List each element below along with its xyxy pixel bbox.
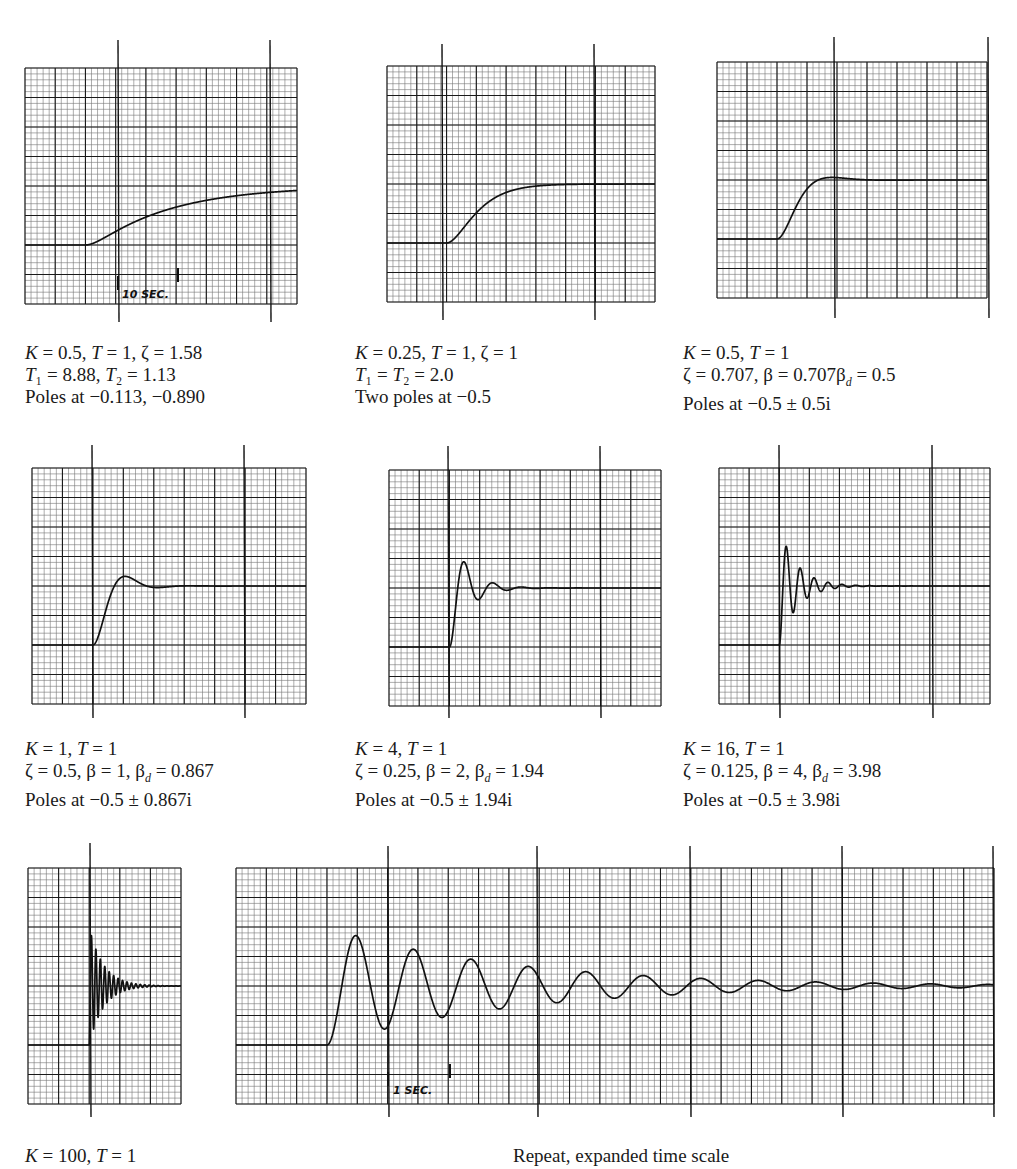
caption-p2: K = 0.25, T = 1, ζ = 1T₁ = T₂ = 2.0Two p… xyxy=(355,342,518,408)
caption-line: ζ = 0.25, β = 2, βd = 1.94 xyxy=(355,760,544,789)
time-scale-label: 1 SEC. xyxy=(393,1084,432,1097)
caption-line: K = 0.5, T = 1 xyxy=(683,342,896,364)
caption-p7: K = 100, T = 1 xyxy=(25,1145,136,1167)
caption-line: K = 100, T = 1 xyxy=(25,1145,136,1167)
caption-line: K = 4, T = 1 xyxy=(355,738,544,760)
caption-line: Poles at −0.5 ± 1.94i xyxy=(355,789,544,811)
step-response-curve xyxy=(236,936,994,1045)
caption-line: K = 1, T = 1 xyxy=(25,738,214,760)
caption-line: Repeat, expanded time scale xyxy=(513,1145,729,1167)
caption-line: ζ = 0.5, β = 1, βd = 0.867 xyxy=(25,760,214,789)
caption-line: Poles at −0.5 ± 0.5i xyxy=(683,393,896,415)
caption-p3: K = 0.5, T = 1ζ = 0.707, β = 0.707βd = 0… xyxy=(683,342,896,415)
caption-line: Poles at −0.5 ± 0.867i xyxy=(25,789,214,811)
caption-line: K = 16, T = 1 xyxy=(683,738,881,760)
time-marker-line xyxy=(993,846,994,1117)
caption-p1: K = 0.5, T = 1, ζ = 1.58T₁ = 8.88, T₂ = … xyxy=(25,342,205,408)
caption-line: T₁ = T₂ = 2.0 xyxy=(355,364,518,386)
caption-line: ζ = 0.707, β = 0.707βd = 0.5 xyxy=(683,364,896,393)
caption-line: ζ = 0.125, β = 4, βd = 3.98 xyxy=(683,760,881,789)
caption-line: Poles at −0.5 ± 3.98i xyxy=(683,789,881,811)
caption-line: K = 0.25, T = 1, ζ = 1 xyxy=(355,342,518,364)
caption-p8: Repeat, expanded time scale xyxy=(513,1145,729,1167)
time-marker-line xyxy=(537,846,538,1117)
caption-p4: K = 1, T = 1ζ = 0.5, β = 1, βd = 0.867Po… xyxy=(25,738,214,811)
time-marker-line xyxy=(842,846,843,1117)
chart-grid: 1 SEC. xyxy=(0,0,1017,1169)
caption-p5: K = 4, T = 1ζ = 0.25, β = 2, βd = 1.94Po… xyxy=(355,738,544,811)
caption-p6: K = 16, T = 1ζ = 0.125, β = 4, βd = 3.98… xyxy=(683,738,881,811)
caption-line: Poles at −0.113, −0.890 xyxy=(25,386,205,408)
caption-line: K = 0.5, T = 1, ζ = 1.58 xyxy=(25,342,205,364)
caption-line: T₁ = 8.88, T₂ = 1.13 xyxy=(25,364,205,386)
caption-line: Two poles at −0.5 xyxy=(355,386,518,408)
